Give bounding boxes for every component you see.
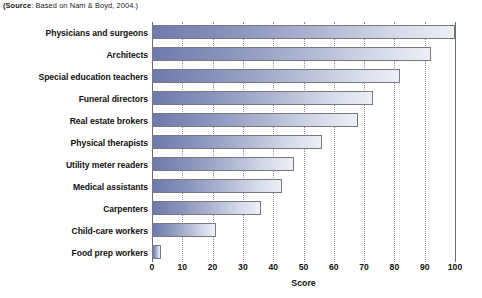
bar <box>152 69 400 83</box>
x-tick-label: 40 <box>268 262 278 272</box>
bar-fill <box>152 113 358 127</box>
plot-area <box>152 22 455 262</box>
source-note-label: (Source <box>3 1 31 10</box>
bar-fill <box>152 135 322 149</box>
x-tick-label: 80 <box>390 262 400 272</box>
bar <box>152 47 431 61</box>
x-tick-label: 100 <box>448 262 462 272</box>
bar-fill <box>152 223 216 237</box>
bar-fill <box>152 47 431 61</box>
source-note-text: : Based on Nam & Boyd, 2004.) <box>31 1 138 10</box>
bar-chart <box>0 22 482 270</box>
x-tick-label: 20 <box>208 262 218 272</box>
bar <box>152 201 261 215</box>
bar <box>152 223 216 237</box>
bar-fill <box>152 201 261 215</box>
source-note: (Source: Based on Nam & Boyd, 2004.) <box>3 1 138 10</box>
x-axis-title: Score <box>152 278 455 288</box>
bar-fill <box>152 157 294 171</box>
bar-series <box>152 22 455 262</box>
bar-fill <box>152 179 282 193</box>
bar <box>152 135 322 149</box>
bar-fill <box>152 69 400 83</box>
x-tick-label: 50 <box>299 262 309 272</box>
bar-fill <box>152 25 455 39</box>
bar <box>152 179 282 193</box>
bar <box>152 25 455 39</box>
x-tick-label: 70 <box>359 262 369 272</box>
x-tick-label: 60 <box>329 262 339 272</box>
x-tick-label: 0 <box>150 262 155 272</box>
bar-fill <box>152 245 161 259</box>
bar <box>152 113 358 127</box>
x-tick-label: 30 <box>238 262 248 272</box>
gridline-100 <box>455 22 456 262</box>
bar <box>152 157 294 171</box>
bar-fill <box>152 91 373 105</box>
bar <box>152 245 161 259</box>
value-axis-ticks: 0102030405060708090100 <box>0 262 482 278</box>
bar <box>152 91 373 105</box>
x-tick-label: 10 <box>178 262 188 272</box>
x-tick-label: 90 <box>420 262 430 272</box>
